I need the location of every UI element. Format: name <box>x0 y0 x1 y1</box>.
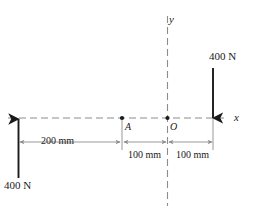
point-label-a: A <box>125 122 131 132</box>
point-marker-o <box>165 116 169 120</box>
point-marker-a <box>120 116 124 120</box>
dimension-label-100-left: 100 mm <box>128 150 161 160</box>
x-axis-label: x <box>234 112 239 123</box>
diagram-canvas <box>0 0 259 212</box>
force-diagram-figure: y x A O 400 N 400 N 200 mm 100 mm 100 mm <box>0 0 259 212</box>
dimension-label-100-right: 100 mm <box>176 150 209 160</box>
right-force-label: 400 N <box>209 51 236 62</box>
dimension-label-200: 200 mm <box>41 136 74 146</box>
point-label-o: O <box>170 122 177 132</box>
left-force-label: 400 N <box>4 180 31 191</box>
y-axis-label: y <box>169 14 174 25</box>
